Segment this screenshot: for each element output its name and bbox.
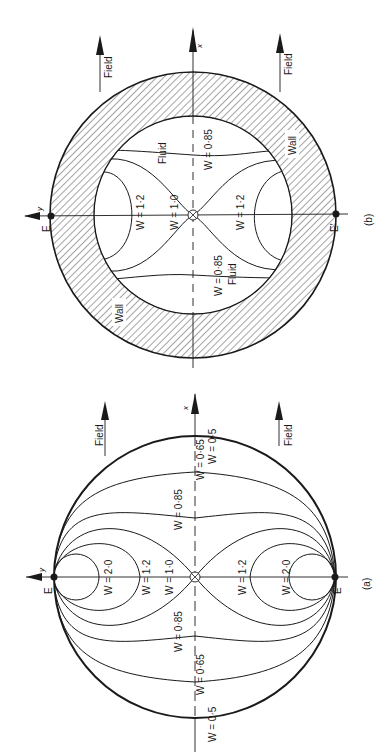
y-axis-label: y	[35, 206, 44, 212]
contour-label: W = 0·5	[207, 428, 218, 464]
x-axis-label: x	[195, 43, 204, 49]
field-label: Field	[283, 424, 294, 446]
point-e-label: E	[43, 587, 54, 594]
contour-label: W = 1·0	[164, 559, 175, 595]
contour-label: W = 1·2	[235, 194, 246, 230]
contour-label: W = 0·65	[195, 439, 206, 480]
contour-label: W = 2·0	[103, 559, 114, 595]
caption-b: (b)	[363, 214, 374, 226]
point-e-label: E	[41, 225, 52, 232]
contour-label: W = 1·0	[169, 194, 180, 230]
field-label: Field	[283, 53, 294, 75]
contour-label: W = 0·65	[195, 654, 206, 695]
figure-canvas: Field Field x y E E' (b) Wall Wall Fluid…	[0, 0, 383, 756]
y-axis-arrow-icon	[26, 573, 42, 581]
y-axis-arrow-icon	[24, 212, 40, 220]
field-arrow-icon	[101, 401, 109, 420]
point-e-prime-label: E'	[329, 223, 340, 232]
contour-label: W = 0·85	[213, 255, 224, 296]
wall-label: Wall	[114, 304, 125, 323]
point-e-b	[48, 213, 55, 220]
contour-label: W = 2·0	[281, 559, 292, 595]
contour-label: W = 1·2	[237, 559, 248, 595]
contour-label: W = 0·85	[173, 611, 184, 652]
contour-label: W = 0·5	[207, 706, 218, 742]
point-e-prime-label: E'	[332, 585, 343, 594]
fluid-label: Fluid	[227, 263, 238, 285]
field-arrow-icon	[276, 33, 284, 53]
caption-a: (a)	[361, 578, 372, 590]
contour-label: W = 1·2	[141, 559, 152, 595]
point-e-prime-a	[332, 574, 339, 581]
fluid-label: Fluid	[157, 142, 168, 164]
x-axis-label: x	[181, 405, 190, 411]
contour-label: W = 0·85	[203, 129, 214, 170]
y-axis-label: y	[37, 567, 46, 573]
wall-label: Wall	[287, 136, 298, 155]
field-label: Field	[103, 56, 114, 78]
contour-label: W = 0·85	[173, 489, 184, 530]
field-arrow-icon	[275, 401, 283, 420]
x-axis-arrow-icon	[191, 393, 199, 414]
panel-b: Field Field x y E E' (b) Wall Wall Fluid…	[24, 27, 374, 368]
contour-label: W = 1·2	[135, 194, 146, 230]
point-e-a	[51, 574, 58, 581]
panel-a: Field Field x y E E' (a) W = 2·0 W = 1·2…	[26, 393, 372, 752]
field-arrow-icon	[96, 35, 104, 55]
point-e-prime-b	[333, 211, 340, 218]
field-label: Field	[94, 424, 105, 446]
